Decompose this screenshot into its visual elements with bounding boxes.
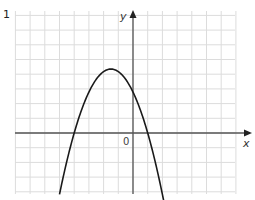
graph [0, 0, 255, 200]
grid [15, 11, 236, 194]
origin-label: 0 [123, 136, 129, 147]
y-axis-label: y [120, 10, 127, 23]
x-axis-arrow-icon [244, 130, 252, 137]
x-axis-label: x [243, 137, 250, 150]
y-axis-arrow-icon [130, 10, 137, 18]
